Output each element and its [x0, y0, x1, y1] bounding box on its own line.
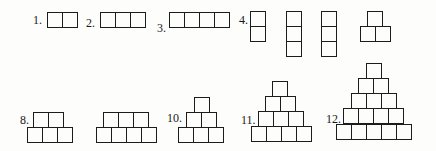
- square-cell: [321, 26, 337, 42]
- square-cell: [27, 127, 43, 143]
- square-cell: [272, 81, 288, 97]
- square-cell: [184, 12, 200, 28]
- square-cell: [199, 12, 215, 28]
- square-cell: [258, 111, 274, 127]
- square-cell: [373, 108, 389, 124]
- square-cell: [286, 26, 302, 42]
- figure-label: 1.: [33, 14, 42, 26]
- figure-label: 2.: [86, 17, 95, 29]
- square-cell: [321, 11, 337, 27]
- square-cell: [141, 127, 157, 143]
- square-cell: [351, 124, 367, 140]
- square-cell: [265, 96, 281, 112]
- figure-label: 11.: [241, 114, 256, 126]
- square-cell: [366, 93, 382, 109]
- square-cell: [286, 11, 302, 27]
- square-cell: [130, 12, 146, 28]
- figure-label: 4.: [239, 14, 248, 26]
- square-cell: [375, 26, 391, 42]
- square-cell: [381, 93, 397, 109]
- square-cell: [273, 111, 289, 127]
- square-cell: [366, 124, 382, 140]
- square-cell: [208, 127, 224, 143]
- square-cell: [42, 127, 58, 143]
- square-cell: [250, 11, 266, 27]
- square-cell: [111, 127, 127, 143]
- square-cell: [57, 127, 73, 143]
- square-cell: [186, 112, 202, 128]
- square-cell: [62, 12, 78, 28]
- square-cell: [193, 127, 209, 143]
- square-cell: [96, 127, 112, 143]
- square-cell: [126, 127, 142, 143]
- square-cell: [115, 12, 131, 28]
- square-cell: [48, 112, 64, 128]
- square-cell: [194, 97, 210, 113]
- square-cell: [373, 78, 389, 94]
- square-cell: [280, 96, 296, 112]
- figure-label: 10.: [167, 112, 182, 124]
- square-cell: [201, 112, 217, 128]
- square-cell: [178, 127, 194, 143]
- square-cell: [214, 12, 230, 28]
- square-cell: [396, 124, 412, 140]
- square-cell: [367, 11, 383, 27]
- square-cell: [47, 12, 63, 28]
- square-cell: [343, 108, 359, 124]
- square-cell: [251, 126, 267, 142]
- square-pattern-diagram: 1.2.3.4.8.10.11.12.: [0, 0, 436, 151]
- square-cell: [286, 41, 302, 57]
- square-cell: [358, 108, 374, 124]
- square-cell: [366, 63, 382, 79]
- square-cell: [250, 26, 266, 42]
- square-cell: [358, 78, 374, 94]
- square-cell: [288, 111, 304, 127]
- square-cell: [388, 108, 404, 124]
- square-cell: [133, 112, 149, 128]
- square-cell: [336, 124, 352, 140]
- square-cell: [296, 126, 312, 142]
- square-cell: [103, 112, 119, 128]
- figure-label: 3.: [157, 22, 166, 34]
- square-cell: [266, 126, 282, 142]
- square-cell: [360, 26, 376, 42]
- square-cell: [33, 112, 49, 128]
- square-cell: [351, 93, 367, 109]
- square-cell: [118, 112, 134, 128]
- square-cell: [169, 12, 185, 28]
- square-cell: [381, 124, 397, 140]
- square-cell: [100, 12, 116, 28]
- figure-label: 8.: [20, 114, 29, 126]
- square-cell: [321, 41, 337, 57]
- square-cell: [281, 126, 297, 142]
